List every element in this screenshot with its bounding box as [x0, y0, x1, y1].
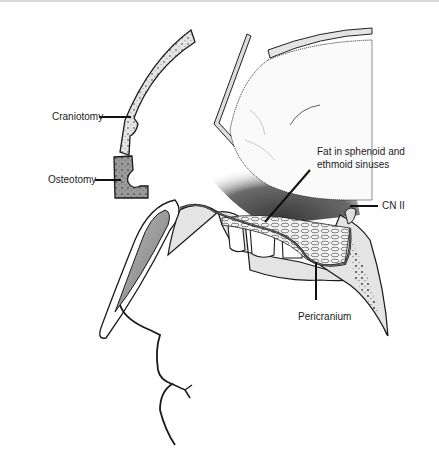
- label-craniotomy: Craniotomy: [52, 111, 103, 123]
- craniotomy-flap-icon: [120, 30, 195, 155]
- label-fat-line2: ethmoid sinuses: [317, 159, 389, 171]
- anatomy-illustration: [0, 0, 439, 465]
- figure-canvas: Craniotomy Osteotomy Fat in sphenoid and…: [0, 0, 439, 465]
- label-cn2: CN II: [382, 200, 405, 212]
- label-osteotomy: Osteotomy: [48, 174, 96, 186]
- osteotomy-piece-icon: [114, 156, 148, 198]
- label-fat-line1: Fat in sphenoid and: [317, 146, 405, 158]
- label-pericranium: Pericranium: [298, 311, 351, 323]
- face-profile: [120, 305, 175, 445]
- nasal-cartilage-icon: [100, 200, 179, 338]
